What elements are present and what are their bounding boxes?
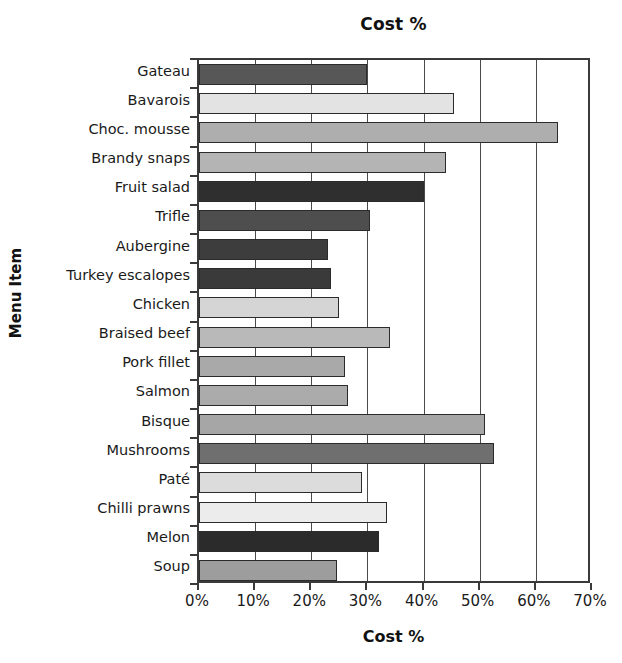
x-axis-tick bbox=[590, 583, 592, 590]
y-axis-tick bbox=[190, 233, 197, 235]
y-axis-tick bbox=[190, 116, 197, 118]
bar bbox=[199, 414, 485, 435]
y-axis-tick-label: Chilli prawns bbox=[8, 500, 190, 516]
y-axis-tick bbox=[190, 379, 197, 381]
y-axis-tick-label: Choc. mousse bbox=[8, 121, 190, 137]
y-axis-tick bbox=[190, 58, 197, 60]
x-axis-tick bbox=[478, 583, 480, 590]
x-axis-tick bbox=[534, 583, 536, 590]
y-axis-tick-label: Brandy snaps bbox=[8, 150, 190, 166]
bar bbox=[199, 181, 424, 202]
y-axis-tick-label: Paté bbox=[8, 471, 190, 487]
y-axis-tick-label: Melon bbox=[8, 529, 190, 545]
y-axis-tick bbox=[190, 408, 197, 410]
bar bbox=[199, 122, 558, 143]
bar bbox=[199, 152, 446, 173]
x-axis-tick bbox=[197, 583, 199, 590]
bar bbox=[199, 385, 348, 406]
y-axis-tick bbox=[190, 321, 197, 323]
chart-title: Cost % bbox=[197, 14, 590, 34]
bar bbox=[199, 531, 379, 552]
y-axis-tick-label: Aubergine bbox=[8, 238, 190, 254]
y-axis-tick-label: Salmon bbox=[8, 383, 190, 399]
plot-area bbox=[197, 58, 590, 583]
x-axis-tick bbox=[365, 583, 367, 590]
y-axis-tick-label: Chicken bbox=[8, 296, 190, 312]
bar-chart: Cost % Menu Item GateauBavaroisChoc. mou… bbox=[0, 0, 622, 663]
y-axis-tick bbox=[190, 146, 197, 148]
y-axis-tick-label: Braised beef bbox=[8, 325, 190, 341]
y-axis-tick bbox=[190, 175, 197, 177]
bar bbox=[199, 472, 362, 493]
y-axis-tick-label: Mushrooms bbox=[8, 442, 190, 458]
y-axis-tick bbox=[190, 525, 197, 527]
y-axis-tick-label: Pork fillet bbox=[8, 354, 190, 370]
bar bbox=[199, 356, 345, 377]
y-axis-tick bbox=[190, 87, 197, 89]
x-axis-tick-label: 70% bbox=[555, 592, 622, 610]
y-axis-tick-label: Gateau bbox=[8, 63, 190, 79]
y-axis-tick bbox=[190, 496, 197, 498]
bar bbox=[199, 443, 494, 464]
y-axis-tick bbox=[190, 583, 197, 585]
y-axis-tick bbox=[190, 437, 197, 439]
bar bbox=[199, 239, 328, 260]
y-axis-tick-label: Bavarois bbox=[8, 92, 190, 108]
y-axis-tick bbox=[190, 350, 197, 352]
y-axis-tick-label: Turkey escalopes bbox=[8, 267, 190, 283]
bar bbox=[199, 93, 454, 114]
x-axis-tick bbox=[253, 583, 255, 590]
y-axis-tick bbox=[190, 204, 197, 206]
y-axis-tick bbox=[190, 466, 197, 468]
bars-layer bbox=[199, 60, 588, 581]
bar bbox=[199, 210, 370, 231]
y-axis-tick-label: Soup bbox=[8, 558, 190, 574]
y-axis-tick-label: Trifle bbox=[8, 208, 190, 224]
bar bbox=[199, 64, 367, 85]
x-axis-title: Cost % bbox=[197, 627, 590, 646]
x-axis-tick bbox=[422, 583, 424, 590]
bar bbox=[199, 297, 339, 318]
x-axis-tick bbox=[309, 583, 311, 590]
y-axis-tick bbox=[190, 262, 197, 264]
y-axis-tick-label: Bisque bbox=[8, 413, 190, 429]
bar bbox=[199, 560, 337, 581]
bar bbox=[199, 502, 387, 523]
y-axis-tick bbox=[190, 554, 197, 556]
bar bbox=[199, 327, 390, 348]
bar bbox=[199, 268, 331, 289]
y-axis-tick bbox=[190, 291, 197, 293]
y-axis-tick-label: Fruit salad bbox=[8, 179, 190, 195]
